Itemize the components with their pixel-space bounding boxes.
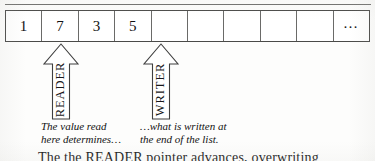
writer-caption: …what is written at the end of the list. [140, 120, 250, 145]
reader-pointer-arrow: READER [42, 42, 80, 121]
list-cell: 7 [42, 11, 78, 41]
list-cell-empty [188, 11, 224, 41]
top-horizontal-rule [5, 4, 371, 5]
reader-caption: The value read here determines… [41, 120, 141, 145]
list-cell: 5 [115, 11, 151, 41]
body-text-clip: The the READER pointer advances, overwri… [0, 152, 375, 161]
writer-pointer-arrow: WRITER [142, 42, 180, 121]
list-array: 1 7 3 5 … [5, 10, 370, 42]
list-cell-ellipsis: … [334, 11, 369, 41]
list-cell: 1 [6, 11, 42, 41]
list-cell: 3 [79, 11, 115, 41]
body-text-cutoff: The the READER pointer advances, overwri… [38, 152, 319, 161]
up-arrow-icon [42, 42, 80, 121]
list-cell-empty [297, 11, 333, 41]
list-cell-empty [224, 11, 260, 41]
list-cell-empty [152, 11, 188, 41]
up-arrow-icon [142, 42, 180, 121]
list-cell-empty [261, 11, 297, 41]
